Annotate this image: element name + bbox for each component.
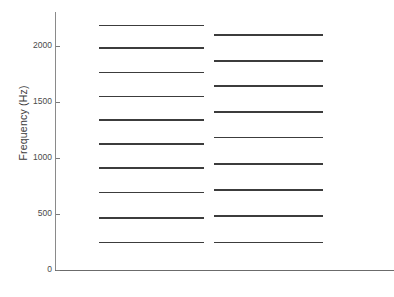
level-line bbox=[214, 34, 322, 36]
level-line bbox=[214, 60, 322, 62]
level-line bbox=[214, 85, 322, 87]
level-line bbox=[214, 111, 322, 113]
level-line bbox=[214, 242, 322, 244]
plot-area: 0500100015002000 bbox=[0, 0, 394, 297]
level-line bbox=[214, 163, 322, 165]
level-line bbox=[214, 137, 322, 139]
frequency-level-chart: 0500100015002000 Frequency (Hz) bbox=[0, 0, 394, 297]
level-line bbox=[214, 215, 322, 217]
series-right-levels bbox=[0, 0, 394, 297]
level-line bbox=[214, 189, 322, 191]
y-axis-title: Frequency (Hz) bbox=[17, 53, 29, 193]
